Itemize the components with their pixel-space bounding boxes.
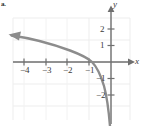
y-tick-label-neg2: −2 — [96, 91, 106, 100]
y-axis-label: y — [113, 0, 117, 9]
graph-figure: a. — [0, 0, 143, 126]
y-tick-label-neg1: −1 — [96, 74, 106, 83]
x-tick-label-neg4: −4 — [20, 66, 30, 75]
y-tick-label-2: 2 — [100, 25, 105, 34]
x-tick-label-neg1: −1 — [85, 66, 95, 75]
coordinate-plane-svg — [0, 0, 143, 126]
x-tick-label-neg2: −2 — [63, 66, 73, 75]
x-axis-label: x — [135, 57, 139, 66]
x-axis — [13, 59, 135, 66]
y-tick-label-1: 1 — [100, 41, 105, 50]
x-tick-label-neg3: −3 — [42, 66, 52, 75]
